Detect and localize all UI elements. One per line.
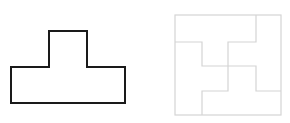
- divided-square: [175, 15, 281, 115]
- diagram-canvas: [0, 0, 290, 123]
- inner-division-line: [202, 15, 256, 115]
- t-shape-outline: [11, 31, 125, 103]
